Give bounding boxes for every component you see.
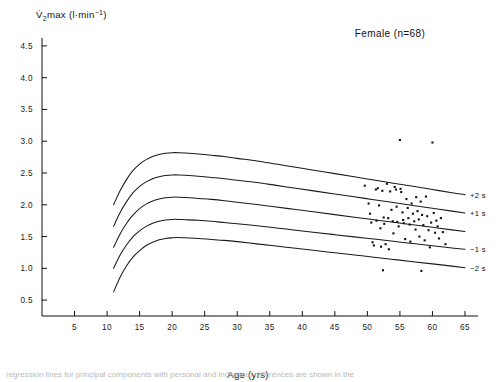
x-tick-label: 35 (265, 323, 275, 332)
curve--2s (114, 238, 465, 292)
scatter-point (401, 211, 403, 213)
scatter-point (379, 227, 381, 229)
y-tick-label: 0.5 (20, 296, 33, 305)
scatter-point (433, 212, 435, 214)
scatter-point (369, 213, 371, 215)
scatter-point (414, 229, 416, 231)
curve-2s (114, 153, 465, 205)
scatter-point (372, 241, 374, 243)
x-tick-label: 5 (72, 323, 77, 332)
y-tick-label: 2.5 (20, 169, 33, 178)
x-tick-label: 10 (102, 323, 112, 332)
y-tick-label: 1.0 (20, 264, 33, 273)
curve-label: +1 s (470, 209, 486, 218)
scatter-point (385, 243, 387, 245)
curve-label: −1 s (470, 245, 486, 254)
scatter-point (373, 244, 375, 246)
scatter-point (383, 216, 385, 218)
scatter-point (375, 188, 377, 190)
y-tick-label: 4.0 (20, 74, 33, 83)
scatter-point (377, 187, 379, 189)
svg-text:V̇2max (l·min−1): V̇2max (l·min−1) (36, 9, 107, 22)
x-tick-label: 60 (427, 323, 437, 332)
scatter-point (420, 201, 422, 203)
x-tick-label: 40 (297, 323, 307, 332)
scatter-point (421, 214, 423, 216)
x-axis-ticks: 5101520253035404550556065 (72, 311, 470, 332)
y-tick-label: 2.0 (20, 201, 33, 210)
scatter-point (370, 222, 372, 224)
scatter-point (403, 222, 405, 224)
scatter-point (392, 220, 394, 222)
x-tick-label: 25 (200, 323, 210, 332)
percentile-curves (114, 153, 465, 292)
scatter-point (400, 191, 402, 193)
x-tick-label: 65 (460, 323, 470, 332)
scatter-point (431, 141, 433, 143)
scatter-point (434, 232, 436, 234)
scatter-point (383, 223, 385, 225)
y-axis-title: V̇2max (l·min−1) (36, 9, 107, 22)
vo2max-age-figure: 0.51.01.52.02.53.03.54.04.5 510152025303… (0, 0, 496, 382)
scatter-point (407, 217, 409, 219)
scatter-point (424, 239, 426, 241)
x-tick-label: 45 (330, 323, 340, 332)
caption-text: regression lines for principal component… (6, 372, 490, 379)
scatter-point (389, 190, 391, 192)
scatter-point (390, 209, 392, 211)
scatter-point (364, 185, 366, 187)
x-tick-label: 50 (362, 323, 372, 332)
scatter-point (418, 218, 420, 220)
scatter-point (437, 225, 439, 227)
y-tick-label: 3.5 (20, 105, 33, 114)
scatter-point (404, 238, 406, 240)
curve-labels: +2 s+1 s−1 s−2 s (470, 191, 486, 273)
scatter-point (415, 196, 417, 198)
scatter-point (416, 210, 418, 212)
scatter-point (395, 188, 397, 190)
scatter-point (382, 269, 384, 271)
x-tick-label: 15 (135, 323, 145, 332)
scatter-point (438, 237, 440, 239)
scatter-point (411, 202, 413, 204)
scatter-point (425, 195, 427, 197)
curve-label: −2 s (470, 264, 486, 273)
scatter-point (426, 215, 428, 217)
scatter-point (442, 231, 444, 233)
scatter-point (375, 220, 377, 222)
scatter-point (368, 202, 370, 204)
scatter-point (422, 224, 424, 226)
scatter-point (387, 217, 389, 219)
x-tick-label: 20 (167, 323, 177, 332)
scatter-point (409, 241, 411, 243)
plot-axes: 0.51.01.52.02.53.03.54.04.5 510152025303… (20, 38, 478, 332)
scatter-points (364, 139, 447, 272)
scatter-point (444, 243, 446, 245)
scatter-point (398, 225, 400, 227)
y-axis-ticks: 0.51.01.52.02.53.03.54.04.5 (20, 42, 47, 305)
scatter-point (402, 219, 404, 221)
scatter-point (440, 217, 442, 219)
scatter-point (392, 232, 394, 234)
sample-annotation: Female (n=68) (355, 28, 426, 39)
scatter-point (427, 229, 429, 231)
scatter-point (388, 248, 390, 250)
scatter-point (394, 186, 396, 188)
x-tick-label: 30 (232, 323, 242, 332)
y-tick-label: 1.5 (20, 233, 33, 242)
scatter-point (378, 204, 380, 206)
scatter-point (407, 207, 409, 209)
curve--1s (114, 219, 465, 268)
scatter-point (400, 188, 402, 190)
x-tick-label: 55 (395, 323, 405, 332)
scatter-point (386, 183, 388, 185)
scatter-point (430, 222, 432, 224)
scatter-point (405, 198, 407, 200)
figure-caption-clipped: regression lines for principal component… (0, 372, 496, 382)
y-tick-label: 4.5 (20, 42, 33, 51)
scatter-point (396, 206, 398, 208)
scatter-point (435, 220, 437, 222)
curve-1s (114, 175, 465, 227)
chart-canvas: 0.51.01.52.02.53.03.54.04.5 510152025303… (0, 0, 496, 382)
scatter-point (418, 236, 420, 238)
